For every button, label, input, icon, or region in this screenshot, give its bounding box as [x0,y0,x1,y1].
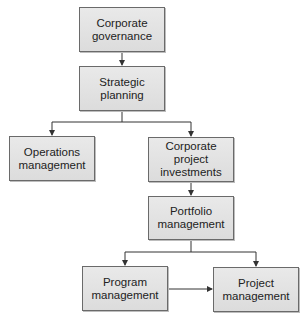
node-program-management: Program management [82,266,168,311]
node-portfolio-management: Portfolio management [148,196,234,240]
node-label: Corporate governance [92,17,152,43]
node-label: Strategic planning [99,76,144,102]
node-corporate-governance: Corporate governance [79,7,165,52]
node-label: Program management [91,276,158,302]
node-corporate-project-investments: Corporate project investments [148,137,234,182]
node-strategic-planning: Strategic planning [79,66,165,111]
node-label: Project management [222,277,289,303]
node-operations-management: Operations management [9,136,95,181]
node-label: Portfolio management [157,205,224,231]
node-label: Operations management [18,146,85,172]
diagram-canvas: Corporate governance Strategic planning … [0,0,306,319]
node-project-management: Project management [213,267,299,312]
node-label: Corporate project investments [149,140,233,179]
